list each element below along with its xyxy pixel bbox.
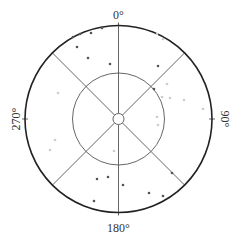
data-point <box>72 36 75 39</box>
data-point <box>76 46 79 49</box>
angle-label-270: 270° <box>9 107 23 130</box>
data-point <box>166 83 169 86</box>
data-point <box>90 32 93 35</box>
polar-grid <box>22 23 215 216</box>
spoke-line <box>122 123 184 185</box>
data-point <box>156 33 159 36</box>
spoke-line <box>52 53 114 115</box>
data-point <box>202 108 205 111</box>
data-point <box>93 200 96 203</box>
center-hub <box>113 114 124 125</box>
data-point <box>169 97 172 100</box>
data-point <box>171 172 174 175</box>
data-point <box>161 96 164 99</box>
data-point <box>122 184 125 187</box>
angle-label-180: 180° <box>107 221 130 235</box>
data-point <box>156 116 159 119</box>
data-point <box>87 57 90 60</box>
data-point <box>109 63 112 66</box>
data-point <box>162 195 165 198</box>
data-point <box>157 65 160 68</box>
angle-label-90: 90° <box>218 111 232 128</box>
data-point <box>101 27 104 30</box>
data-point <box>153 88 156 91</box>
spoke-line <box>122 53 184 115</box>
spoke-line <box>52 123 114 185</box>
data-point <box>107 176 110 179</box>
data-point <box>49 149 52 152</box>
data-point <box>113 150 116 153</box>
data-point <box>57 92 60 95</box>
data-point <box>157 124 160 127</box>
data-point <box>148 192 151 195</box>
data-point <box>79 33 82 36</box>
data-points <box>49 27 205 203</box>
data-point <box>54 139 57 142</box>
data-point <box>183 99 186 102</box>
data-point <box>96 178 99 181</box>
polar-plot: 0° 90° 180° 270° <box>0 0 237 243</box>
angle-label-0: 0° <box>113 8 124 22</box>
data-point <box>162 38 165 41</box>
